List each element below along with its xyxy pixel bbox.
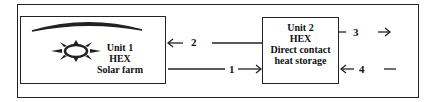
unit2-line-4: heat storage [262,55,339,66]
stream-2-arrow [168,39,262,47]
unit2-label: Unit 2 HEX Direct contact heat storage [262,22,339,66]
unit2-line-3: Direct contact [262,44,339,55]
stream-4-label: 4 [359,63,365,75]
solar-collector-icon [32,23,142,31]
unit1-label: Unit 1 HEX Solar farm [92,42,148,75]
stream-1-label: 1 [229,63,235,75]
unit2-line-2: HEX [262,33,339,44]
unit1-line-2: HEX [92,53,148,64]
unit1-line-3: Solar farm [92,64,148,75]
diagram-graphics [0,0,432,102]
stream-2-label: 2 [191,36,197,48]
unit2-line-1: Unit 2 [262,22,339,33]
stream-3-label: 3 [353,26,359,38]
stream-4-arrow [341,65,396,73]
stream-1-arrow [168,65,261,73]
unit1-line-1: Unit 1 [92,42,148,53]
stream-3-arrow [339,28,390,36]
